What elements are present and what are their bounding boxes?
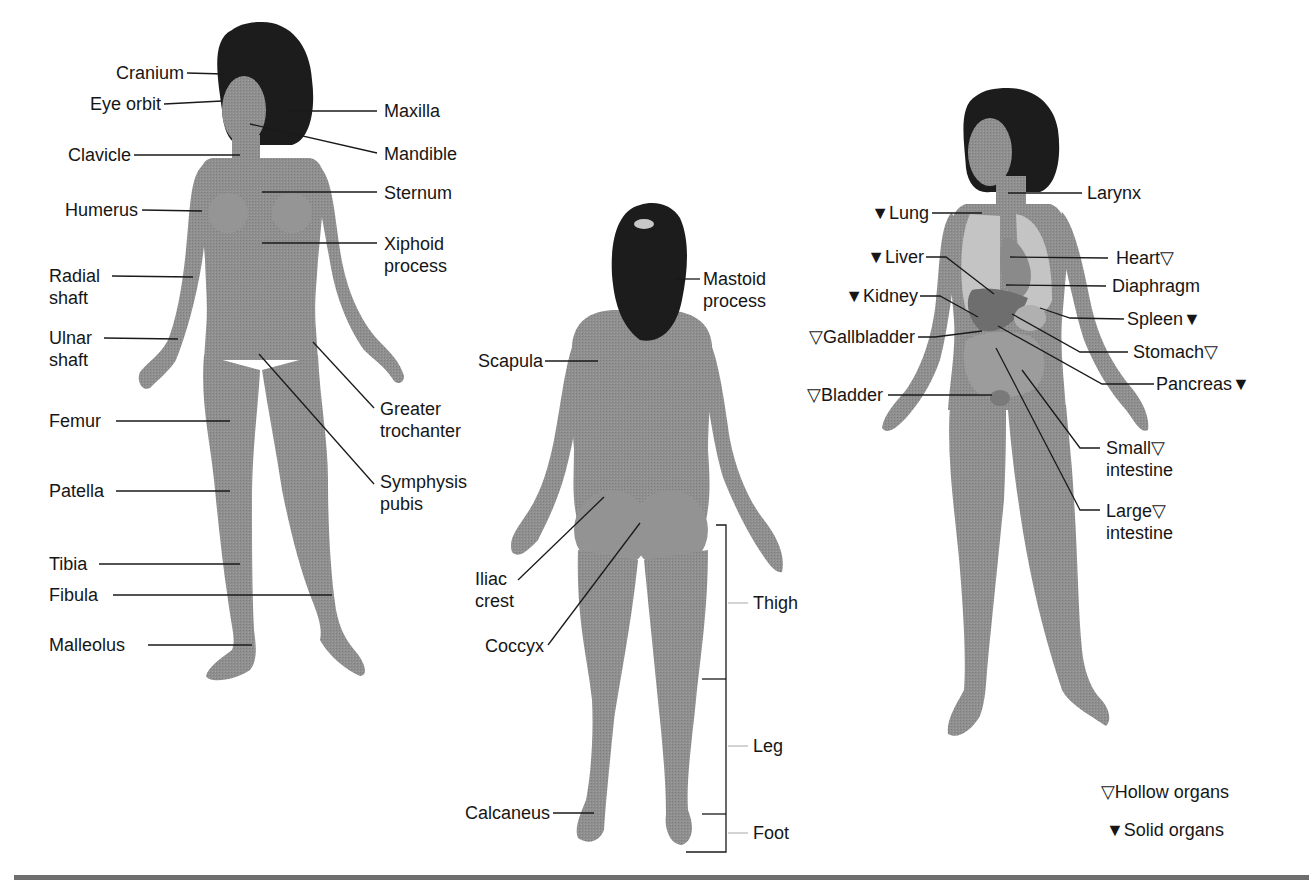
label-symphysis-pubis-line1: Symphysis <box>380 472 467 492</box>
label-patella: Patella <box>49 480 104 502</box>
legend-solid-organs: ▼Solid organs <box>1106 819 1224 841</box>
label-cranium: Cranium <box>116 62 184 84</box>
label-symphysis-pubis-line2: pubis <box>380 494 423 514</box>
label-radial-shaft-line1: Radial <box>49 266 100 286</box>
label-xiphoid-line1: Xiphoid <box>384 234 444 254</box>
label-fibula: Fibula <box>49 584 98 606</box>
label-radial-shaft-line2: shaft <box>49 288 88 308</box>
label-iliac-line1: Iliac <box>475 569 507 589</box>
label-sternum: Sternum <box>384 182 452 204</box>
label-ulnar-shaft: Ulnar shaft <box>49 327 92 371</box>
label-pancreas: Pancreas▼ <box>1156 373 1250 395</box>
label-femur: Femur <box>49 410 101 432</box>
label-radial-shaft: Radial shaft <box>49 265 100 309</box>
label-tibia: Tibia <box>49 553 87 575</box>
label-large-intestine: Large▽ intestine <box>1106 500 1173 544</box>
right-leg <box>262 355 365 676</box>
label-small-intestine-line1: Small▽ <box>1106 438 1165 458</box>
label-small-intestine: Small▽ intestine <box>1106 437 1173 481</box>
label-diaphragm: Diaphragm <box>1112 275 1200 297</box>
label-calcaneus: Calcaneus <box>465 802 550 824</box>
label-greater-trochanter: Greater trochanter <box>380 398 461 442</box>
label-lung: ▼Lung <box>871 202 929 224</box>
label-greater-trochanter-line2: trochanter <box>380 421 461 441</box>
label-spleen: Spleen▼ <box>1127 308 1201 330</box>
label-mastoid-line1: Mastoid <box>703 269 766 289</box>
label-heart: Heart▽ <box>1116 247 1174 269</box>
label-small-intestine-line2: intestine <box>1106 460 1173 480</box>
legend-hollow-organs: ▽Hollow organs <box>1101 781 1229 803</box>
anterior-figure <box>99 22 404 680</box>
label-large-intestine-line1: Large▽ <box>1106 501 1166 521</box>
label-kidney: ▼Kidney <box>845 285 918 307</box>
back-right-leg <box>644 550 708 845</box>
label-xiphoid-line2: process <box>384 256 447 276</box>
label-ulnar-shaft-line2: shaft <box>49 350 88 370</box>
label-mandible: Mandible <box>384 143 457 165</box>
label-bladder: ▽Bladder <box>807 384 883 406</box>
torso <box>199 158 324 360</box>
label-ulnar-shaft-line1: Ulnar <box>49 328 92 348</box>
label-symphysis-pubis: Symphysis pubis <box>380 471 467 515</box>
label-clavicle: Clavicle <box>68 144 131 166</box>
label-thigh: Thigh <box>753 592 798 614</box>
label-greater-trochanter-line1: Greater <box>380 399 441 419</box>
left-leg <box>203 355 260 680</box>
label-foot: Foot <box>753 822 789 844</box>
label-maxilla: Maxilla <box>384 100 440 122</box>
bottom-divider <box>14 875 1309 880</box>
label-iliac-line2: crest <box>475 591 514 611</box>
back-right-arm <box>700 330 783 572</box>
label-coccyx: Coccyx <box>485 635 544 657</box>
label-leg: Leg <box>753 735 783 757</box>
label-large-intestine-line2: intestine <box>1106 523 1173 543</box>
label-gallbladder: ▽Gallbladder <box>809 326 915 348</box>
label-malleolus: Malleolus <box>49 634 125 656</box>
face <box>222 76 266 144</box>
label-iliac-crest: Iliac crest <box>475 568 514 612</box>
label-mastoid-process: Mastoid process <box>703 268 766 312</box>
organs-face <box>968 118 1012 186</box>
bladder <box>990 390 1010 406</box>
label-larynx: Larynx <box>1087 182 1141 204</box>
label-liver: ▼Liver <box>867 246 924 268</box>
anatomy-diagram: Cranium Eye orbit Clavicle Humerus Radia… <box>0 0 1309 896</box>
label-scapula: Scapula <box>478 350 543 372</box>
label-eye-orbit: Eye orbit <box>90 93 161 115</box>
label-xiphoid-process: Xiphoid process <box>384 233 447 277</box>
label-humerus: Humerus <box>65 199 138 221</box>
label-stomach: Stomach▽ <box>1133 341 1218 363</box>
label-mastoid-line2: process <box>703 291 766 311</box>
